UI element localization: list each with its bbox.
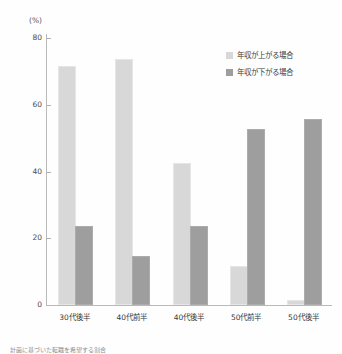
bar-series-2 (190, 226, 208, 305)
x-axis-category-label: 30代後半 (59, 311, 90, 322)
bar-series-1 (115, 59, 133, 305)
legend-swatch-icon-series-2 (226, 69, 233, 76)
bar-series-1 (230, 266, 248, 305)
y-axis-tick-label: 0 (14, 301, 42, 309)
legend-swatch-icon-series-1 (226, 52, 233, 59)
y-axis-unit-label: (%) (29, 16, 42, 25)
x-axis-line (46, 305, 332, 306)
y-axis-tick-label: 20 (14, 234, 42, 242)
bar-series-1 (58, 66, 76, 305)
chart-legend: 年収が上がる場合 年収が下がる場合 (226, 52, 293, 76)
legend-label-series-1: 年収が上がる場合 (237, 52, 293, 60)
y-axis-tick-label: 40 (14, 168, 42, 176)
legend-item-series-1: 年収が上がる場合 (226, 52, 293, 60)
bar-series-2 (132, 256, 150, 305)
x-axis-category-label: 50代前半 (231, 311, 262, 322)
y-axis-tick (46, 105, 51, 106)
plot-area: (%) 020406080 30代後半40代前半40代後半50代前半50代後半 … (0, 0, 342, 354)
legend-item-series-2: 年収が下がる場合 (226, 69, 293, 77)
y-axis-line (46, 34, 47, 306)
bar-series-2 (304, 119, 322, 305)
chart-figure: (%) 020406080 30代後半40代前半40代後半50代前半50代後半 … (0, 0, 342, 354)
x-axis-category-label: 40代後半 (174, 311, 205, 322)
y-axis-tick-label: 80 (14, 34, 42, 42)
legend-label-series-2: 年収が下がる場合 (237, 69, 293, 77)
x-axis-category-label: 40代前半 (117, 311, 148, 322)
y-axis-tick-label: 60 (14, 101, 42, 109)
x-axis-category-label: 50代後半 (288, 311, 319, 322)
y-axis-tick (46, 238, 51, 239)
y-axis-tick (46, 38, 51, 39)
bar-series-2 (247, 129, 265, 305)
bar-series-1 (173, 163, 191, 305)
y-axis-tick (46, 172, 51, 173)
bar-series-2 (75, 226, 93, 305)
bar-series-1 (287, 300, 305, 305)
chart-footnote: 計画に基づいた転職を希望する割合 (10, 346, 332, 354)
